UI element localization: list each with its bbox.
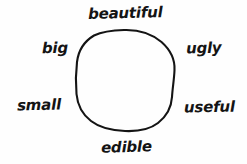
- node-label-small: small: [17, 97, 61, 113]
- node-label-useful: useful: [184, 100, 235, 116]
- circle-outline-path: [76, 30, 175, 131]
- diagram-canvas: beautiful ugly useful edible small big: [0, 0, 247, 164]
- node-label-edible: edible: [101, 139, 152, 155]
- node-label-big: big: [42, 41, 68, 56]
- node-label-ugly: ugly: [186, 40, 222, 56]
- node-label-beautiful: beautiful: [88, 5, 163, 22]
